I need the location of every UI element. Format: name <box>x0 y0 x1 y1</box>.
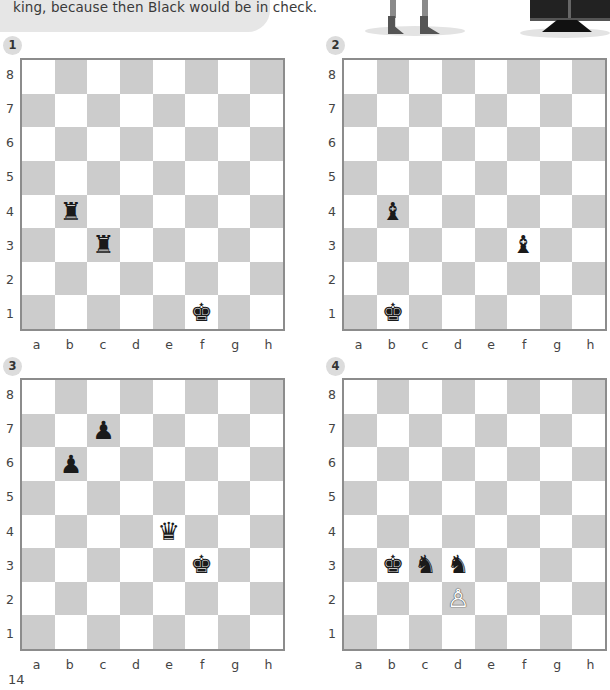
square-b1: ♚ <box>377 295 410 329</box>
square-e2 <box>475 262 508 296</box>
square-a5 <box>22 161 55 195</box>
file-label: h <box>574 657 607 672</box>
square-a8 <box>344 60 377 94</box>
square-c8 <box>409 380 442 414</box>
square-e8 <box>153 380 186 414</box>
square-c2 <box>87 262 120 296</box>
square-h5 <box>250 481 283 515</box>
square-a3 <box>22 228 55 262</box>
rank-label: 8 <box>3 387 17 402</box>
rank-label: 1 <box>3 626 17 641</box>
square-g2 <box>540 582 573 616</box>
square-c3: ♜ <box>87 228 120 262</box>
file-label: e <box>475 337 508 352</box>
square-e2 <box>475 582 508 616</box>
black-pawn-icon: ♟ <box>92 418 114 443</box>
square-c4 <box>87 515 120 549</box>
square-c2 <box>87 582 120 616</box>
square-g6 <box>540 127 573 161</box>
square-f7 <box>185 414 218 448</box>
square-h7 <box>572 94 605 128</box>
square-c1 <box>87 295 120 329</box>
square-h1 <box>572 295 605 329</box>
white-pawn-icon: ♙ <box>447 586 469 611</box>
square-a6 <box>22 127 55 161</box>
square-e5 <box>475 161 508 195</box>
square-c3: ♞ <box>409 548 442 582</box>
file-label: e <box>475 657 508 672</box>
square-d1 <box>120 615 153 649</box>
square-h6 <box>250 127 283 161</box>
square-b3 <box>55 548 88 582</box>
square-f1: ♚ <box>185 295 218 329</box>
square-h4 <box>572 515 605 549</box>
square-e7 <box>475 414 508 448</box>
square-h7 <box>250 94 283 128</box>
square-c7: ♟ <box>87 414 120 448</box>
file-label: c <box>408 657 441 672</box>
square-e8 <box>153 60 186 94</box>
square-e1 <box>153 615 186 649</box>
rank-label: 8 <box>325 67 339 82</box>
square-a1 <box>344 615 377 649</box>
square-b6 <box>55 127 88 161</box>
square-b4 <box>377 515 410 549</box>
square-d7 <box>442 94 475 128</box>
rank-label: 1 <box>325 306 339 321</box>
square-h7 <box>572 414 605 448</box>
square-e4 <box>475 515 508 549</box>
square-g4 <box>540 195 573 229</box>
file-label: c <box>408 337 441 352</box>
square-g8 <box>218 60 251 94</box>
square-f5 <box>507 161 540 195</box>
square-e6 <box>153 447 186 481</box>
square-g1 <box>540 615 573 649</box>
square-f8 <box>507 60 540 94</box>
square-b6 <box>377 447 410 481</box>
square-f7 <box>185 94 218 128</box>
square-b3 <box>377 228 410 262</box>
file-label: g <box>541 657 574 672</box>
black-rook-icon: ♜ <box>60 199 82 224</box>
file-label: d <box>441 337 474 352</box>
square-a2 <box>344 262 377 296</box>
file-label: a <box>342 657 375 672</box>
square-e1 <box>475 615 508 649</box>
square-g4 <box>540 515 573 549</box>
square-g8 <box>218 380 251 414</box>
square-h5 <box>250 161 283 195</box>
rank-label: 5 <box>325 489 339 504</box>
square-h6 <box>572 447 605 481</box>
square-e8 <box>475 60 508 94</box>
black-knight-icon: ♞ <box>414 552 436 577</box>
square-a4 <box>344 515 377 549</box>
square-h7 <box>250 414 283 448</box>
square-c4 <box>409 515 442 549</box>
square-h4 <box>250 195 283 229</box>
rank-label: 6 <box>3 135 17 150</box>
square-c8 <box>87 60 120 94</box>
chessboard: ♜♜♚ <box>20 58 285 331</box>
file-label: e <box>153 337 186 352</box>
square-c1 <box>409 295 442 329</box>
rank-label: 3 <box>3 238 17 253</box>
square-c5 <box>87 161 120 195</box>
square-h6 <box>572 127 605 161</box>
square-b6: ♟ <box>55 447 88 481</box>
square-b2 <box>55 262 88 296</box>
square-c7 <box>409 94 442 128</box>
square-g7 <box>540 414 573 448</box>
square-b4: ♜ <box>55 195 88 229</box>
file-label: f <box>508 657 541 672</box>
square-e1 <box>475 295 508 329</box>
file-label: h <box>252 657 285 672</box>
square-f3 <box>185 228 218 262</box>
square-d5 <box>442 161 475 195</box>
square-c5 <box>87 481 120 515</box>
square-c5 <box>409 481 442 515</box>
square-g7 <box>218 94 251 128</box>
puzzle-number-badge: 1 <box>3 36 22 55</box>
square-e4: ♛ <box>153 515 186 549</box>
square-c7 <box>87 94 120 128</box>
black-king-icon: ♚ <box>190 552 212 577</box>
